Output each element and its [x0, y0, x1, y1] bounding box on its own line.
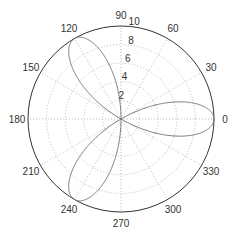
grid-spoke [75, 119, 122, 200]
polar-plot: 2468100306090120150180210240270300330 [0, 0, 235, 235]
tick-labels: 2468100306090120150180210240270300330 [9, 10, 229, 229]
grid-spoke [75, 38, 122, 119]
angle-tick-label: 210 [23, 166, 40, 177]
angle-tick-label: 60 [167, 23, 179, 34]
grid-spoke [121, 38, 168, 119]
grid-spoke [40, 73, 121, 120]
grid-spoke [121, 119, 168, 200]
angle-tick-label: 120 [61, 23, 78, 34]
angle-tick-label: 330 [203, 166, 220, 177]
grid-spoke [121, 73, 202, 120]
angle-tick-label: 300 [165, 204, 182, 215]
angle-tick-label: 150 [23, 62, 40, 73]
angle-tick-label: 180 [9, 114, 26, 125]
radial-tick-label: 10 [129, 16, 141, 27]
radial-tick-label: 8 [128, 35, 134, 46]
radial-tick-label: 4 [122, 71, 128, 82]
angle-tick-label: 270 [113, 218, 130, 229]
grid-spoke [40, 119, 121, 166]
angle-tick-label: 240 [61, 204, 78, 215]
radial-tick-label: 2 [118, 90, 124, 101]
angle-tick-label: 0 [222, 114, 228, 125]
angle-tick-label: 90 [115, 10, 127, 21]
radial-tick-label: 6 [125, 53, 131, 64]
grid-spoke [121, 119, 202, 166]
angle-tick-label: 30 [206, 62, 218, 73]
